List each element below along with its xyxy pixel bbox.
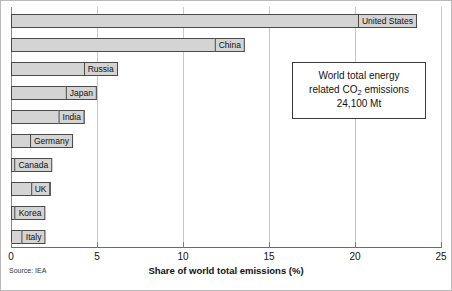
- annotation-line-2-post: emissions: [362, 84, 409, 95]
- annotation-line-1: World total energy: [297, 69, 421, 83]
- annotation-line-3: 24,100 Mt: [297, 97, 421, 111]
- bar-label-china: China: [215, 38, 245, 52]
- bar-label-italy: Italy: [22, 230, 46, 244]
- bar-label-russia: Russia: [84, 62, 118, 76]
- tick-mark-10: [183, 242, 184, 248]
- x-tick-label-20: 20: [349, 251, 360, 262]
- plot-area: United StatesChinaRussiaJapanIndiaGerman…: [11, 7, 441, 247]
- chart-figure: United StatesChinaRussiaJapanIndiaGerman…: [0, 0, 452, 291]
- annotation-line-2-pre: related CO: [309, 84, 357, 95]
- world-total-annotation: World total energy related CO2 emissions…: [292, 62, 426, 119]
- annotation-line-2: related CO2 emissions: [297, 83, 421, 98]
- bar-row: Korea: [11, 201, 441, 225]
- x-tick-label-10: 10: [177, 251, 188, 262]
- bar-label-korea: Korea: [15, 206, 46, 220]
- tick-mark-25: [441, 242, 442, 248]
- tick-mark-0: [11, 242, 12, 248]
- bar-label-united-states: United States: [358, 14, 417, 28]
- bar-label-canada: Canada: [14, 158, 52, 172]
- bar-label-uk: UK: [31, 182, 51, 196]
- bar-label-india: India: [59, 110, 85, 124]
- x-tick-label-15: 15: [263, 251, 274, 262]
- source-note: Source: IEA: [9, 267, 46, 274]
- bar-china: [11, 38, 245, 52]
- x-tick-label-0: 0: [8, 251, 14, 262]
- x-axis-title: Share of world total emissions (%): [1, 265, 451, 276]
- bar-row: United States: [11, 9, 441, 33]
- tick-mark-5: [97, 242, 98, 248]
- x-tick-label-5: 5: [94, 251, 100, 262]
- bar-row: Germany: [11, 129, 441, 153]
- bar-row: Italy: [11, 225, 441, 249]
- bar-label-germany: Germany: [30, 134, 73, 148]
- co2-subscript: 2: [357, 88, 361, 97]
- bar-label-japan: Japan: [66, 86, 97, 100]
- bar-row: UK: [11, 177, 441, 201]
- bar-row: Canada: [11, 153, 441, 177]
- gridline-25: [441, 7, 442, 247]
- x-tick-label-25: 25: [435, 251, 446, 262]
- bar-united-states: [11, 14, 417, 28]
- bar-row: China: [11, 33, 441, 57]
- tick-mark-20: [355, 242, 356, 248]
- tick-mark-15: [269, 242, 270, 248]
